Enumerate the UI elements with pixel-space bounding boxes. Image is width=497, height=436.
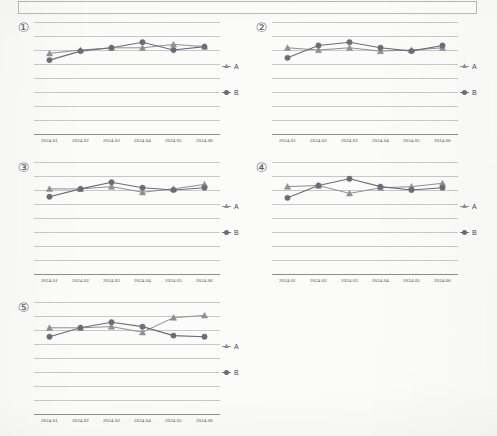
legend-label-b: B	[234, 229, 239, 236]
plot-area	[34, 302, 220, 414]
series-b-point	[347, 39, 352, 44]
x-axis-line	[34, 134, 220, 135]
x-axis-tick-label: 2024.04	[127, 278, 158, 283]
series-b-point	[171, 187, 176, 192]
x-axis-line	[34, 274, 220, 275]
series-b-point	[409, 187, 414, 192]
legend-label-a: A	[234, 343, 239, 350]
circle-marker-icon	[460, 88, 469, 97]
circle-marker-icon	[460, 228, 469, 237]
x-axis-line	[272, 134, 458, 135]
series-b-point	[47, 194, 52, 199]
x-axis-tick-label: 2024.03	[96, 418, 127, 423]
legend-item-a[interactable]: A	[460, 62, 477, 71]
series-b-line	[288, 179, 443, 198]
x-axis-tick-label: 2024.04	[127, 418, 158, 423]
x-axis-labels: 2024.012024.022024.032024.042024.052024.…	[272, 138, 458, 143]
series-b-point	[171, 47, 176, 52]
plot-area	[34, 162, 220, 274]
x-axis-tick-label: 2024.06	[427, 138, 458, 143]
x-axis-tick-label: 2024.05	[158, 418, 189, 423]
plot-area	[34, 22, 220, 134]
x-axis-tick-label: 2024.03	[334, 278, 365, 283]
chart-legend: A B	[222, 342, 239, 394]
series-b-point	[202, 185, 207, 190]
series-b-point	[78, 325, 83, 330]
x-axis-tick-label: 2024.06	[189, 418, 220, 423]
series-plot	[272, 22, 458, 134]
series-b-point	[202, 334, 207, 339]
legend-item-b[interactable]: B	[222, 88, 239, 97]
legend-label-b: B	[234, 89, 239, 96]
top-banner	[18, 1, 477, 14]
series-b-point	[316, 43, 321, 48]
series-b-point	[47, 57, 52, 62]
legend-item-b[interactable]: B	[222, 228, 239, 237]
x-axis-tick-label: 2024.02	[303, 138, 334, 143]
series-b-point	[440, 185, 445, 190]
x-axis-tick-label: 2024.05	[396, 138, 427, 143]
legend-item-a[interactable]: A	[222, 62, 239, 71]
series-b-point	[316, 183, 321, 188]
series-b-point	[378, 45, 383, 50]
series-b-point	[78, 48, 83, 53]
chart-index-label: ③	[16, 160, 31, 175]
series-b-point	[140, 324, 145, 329]
legend-item-a[interactable]: A	[460, 202, 477, 211]
plot-area	[272, 22, 458, 134]
series-plot	[272, 162, 458, 274]
series-b-point	[285, 55, 290, 60]
triangle-marker-icon	[460, 202, 469, 211]
chart-index-label: ②	[254, 20, 269, 35]
x-axis-tick-label: 2024.04	[127, 138, 158, 143]
series-b-point	[440, 43, 445, 48]
series-b-point	[409, 48, 414, 53]
x-axis-labels: 2024.012024.022024.032024.042024.052024.…	[272, 278, 458, 283]
x-axis-tick-label: 2024.04	[365, 138, 396, 143]
legend-item-a[interactable]: A	[222, 342, 239, 351]
x-axis-tick-label: 2024.06	[189, 278, 220, 283]
series-b-point	[140, 185, 145, 190]
series-b-point	[140, 39, 145, 44]
legend-label-a: A	[234, 203, 239, 210]
x-axis-labels: 2024.012024.022024.032024.042024.052024.…	[34, 138, 220, 143]
series-b-point	[285, 195, 290, 200]
series-b-line	[288, 42, 443, 58]
series-b-point	[109, 45, 114, 50]
chart-index-label: ④	[254, 160, 269, 175]
chart-legend: A B	[222, 62, 239, 114]
chart-index-label: ⑤	[16, 300, 31, 315]
plot-area	[272, 162, 458, 274]
chart-legend: A B	[460, 202, 477, 254]
triangle-marker-icon	[222, 202, 231, 211]
x-axis-tick-label: 2024.04	[365, 278, 396, 283]
legend-item-b[interactable]: B	[460, 88, 477, 97]
series-b-point	[171, 333, 176, 338]
x-axis-labels: 2024.012024.022024.032024.042024.052024.…	[34, 418, 220, 423]
series-b-point	[109, 179, 114, 184]
x-axis-tick-label: 2024.01	[34, 418, 65, 423]
chart-legend: A B	[460, 62, 477, 114]
x-axis-tick-label: 2024.03	[334, 138, 365, 143]
legend-label-a: A	[472, 203, 477, 210]
series-b-point	[78, 186, 83, 191]
x-axis-tick-label: 2024.02	[65, 138, 96, 143]
x-axis-tick-label: 2024.06	[189, 138, 220, 143]
series-b-point	[109, 319, 114, 324]
legend-item-a[interactable]: A	[222, 202, 239, 211]
legend-item-b[interactable]: B	[460, 228, 477, 237]
x-axis-tick-label: 2024.06	[427, 278, 458, 283]
legend-label-a: A	[234, 63, 239, 70]
circle-marker-icon	[222, 368, 231, 377]
triangle-marker-icon	[460, 62, 469, 71]
chart-legend: A B	[222, 202, 239, 254]
x-axis-tick-label: 2024.03	[96, 278, 127, 283]
legend-label-a: A	[472, 63, 477, 70]
legend-item-b[interactable]: B	[222, 368, 239, 377]
x-axis-tick-label: 2024.01	[272, 138, 303, 143]
x-axis-tick-label: 2024.05	[158, 278, 189, 283]
triangle-marker-icon	[222, 342, 231, 351]
x-axis-line	[272, 274, 458, 275]
x-axis-tick-label: 2024.05	[158, 138, 189, 143]
series-b-point	[202, 44, 207, 49]
